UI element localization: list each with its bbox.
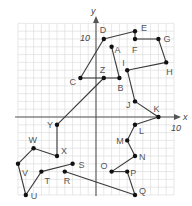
point-label: O: [101, 161, 108, 171]
point-dot-icon: [39, 169, 43, 173]
point-dot-icon: [133, 99, 137, 103]
y-tick-label-10: 10: [80, 33, 90, 43]
point-p: P: [125, 168, 136, 178]
point-label: R: [64, 176, 71, 186]
point-a: A: [109, 45, 120, 55]
point-dot-icon: [133, 37, 137, 41]
point-dot-icon: [31, 146, 35, 150]
point-label: P: [130, 168, 136, 178]
x-axis-label: x: [182, 112, 188, 122]
point-b: B: [117, 76, 123, 93]
point-label: J: [126, 100, 131, 110]
point-label: N: [139, 152, 146, 162]
point-label: W: [29, 135, 38, 145]
point-label: S: [79, 160, 85, 170]
point-label: D: [100, 25, 107, 35]
point-dot-icon: [125, 138, 129, 142]
point-label: A: [115, 45, 121, 55]
point-label: F: [132, 45, 138, 55]
point-dot-icon: [156, 37, 160, 41]
point-dot-icon: [156, 115, 160, 119]
point-dot-icon: [133, 123, 137, 127]
point-j: J: [126, 99, 137, 110]
x-tick-label-10: 10: [171, 123, 181, 133]
point-dot-icon: [125, 68, 129, 72]
point-dot-icon: [133, 29, 137, 33]
point-label: K: [153, 104, 159, 114]
point-dot-icon: [125, 169, 129, 173]
point-label: I: [122, 58, 125, 68]
point-label: V: [22, 168, 28, 178]
coordinate-grid-diagram: x y 10 10 ABCDEFGHIJKLMNOPQRSTUVWXYZ: [0, 0, 192, 206]
point-dot-icon: [133, 154, 137, 158]
grid-plot: x y 10 10 ABCDEFGHIJKLMNOPQRSTUVWXYZ: [0, 0, 192, 206]
segment-q-r: [65, 172, 135, 195]
segment-h-i: [127, 62, 166, 70]
point-label: G: [163, 34, 170, 44]
x-axis-arrow-icon: [174, 114, 181, 120]
y-axis-label: y: [90, 6, 96, 16]
point-label: Q: [139, 186, 146, 196]
point-label: U: [31, 191, 38, 201]
point-dot-icon: [102, 76, 106, 80]
point-dot-icon: [117, 76, 121, 80]
point-label: Y: [47, 120, 53, 130]
point-label: C: [69, 77, 76, 87]
point-dot-icon: [70, 162, 74, 166]
point-dot-icon: [102, 37, 106, 41]
y-axis-arrow-icon: [93, 16, 99, 23]
point-dot-icon: [78, 76, 82, 80]
point-label: L: [139, 126, 144, 136]
point-label: H: [166, 67, 173, 77]
point-dot-icon: [24, 193, 28, 197]
point-label: X: [61, 146, 67, 156]
point-label: B: [117, 83, 123, 93]
point-label: M: [116, 136, 124, 146]
segment-w-x: [34, 148, 57, 156]
point-dot-icon: [164, 60, 168, 64]
point-dot-icon: [109, 45, 113, 49]
point-h: H: [164, 60, 173, 77]
point-dot-icon: [55, 154, 59, 158]
point-dot-icon: [16, 162, 20, 166]
point-label: T: [44, 176, 50, 186]
point-f: F: [132, 37, 138, 55]
point-label: Z: [100, 65, 106, 75]
point-dot-icon: [133, 193, 137, 197]
segment-k-l: [135, 117, 158, 125]
point-dot-icon: [109, 169, 113, 173]
point-dot-icon: [63, 169, 67, 173]
point-dot-icon: [55, 123, 59, 127]
point-label: E: [141, 23, 147, 33]
